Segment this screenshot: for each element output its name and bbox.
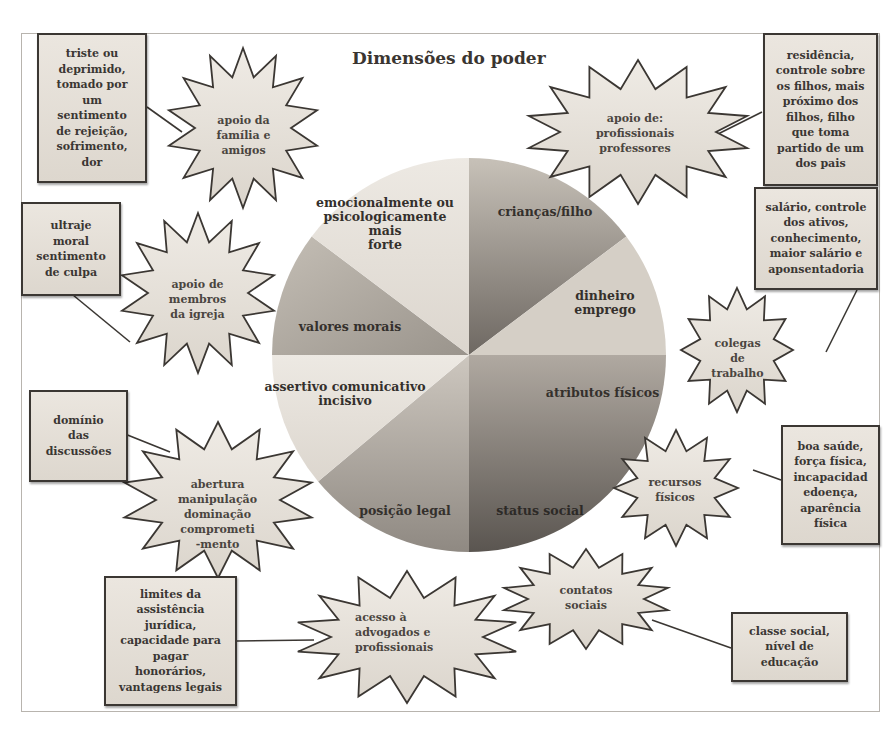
box-salario: salário, controle dos ativos, conhecimen…: [754, 187, 878, 290]
pie-label-posicao: posição legal: [345, 504, 465, 518]
box-triste: triste ou deprimido, tomado por um senti…: [37, 33, 147, 183]
box-residencia: residência, controle sobre os filhos, ma…: [763, 33, 878, 186]
diagram-title: Dimensões do poder: [352, 48, 546, 68]
pie-label-assertivo: assertivo comunicativo incisivo: [255, 380, 435, 408]
box-saude: boa saúde, força física, incapacidad edo…: [781, 425, 880, 545]
box-classe-text: classe social, nível de educação: [749, 624, 830, 671]
box-residencia-text: residência, controle sobre os filhos, ma…: [776, 48, 865, 172]
burst-apoio-familia: apoio da família e amigos: [201, 113, 286, 158]
pie-label-atributos: atributos físicos: [540, 386, 665, 400]
burst-contatos-sociais: contatos sociais: [546, 583, 626, 613]
burst-colegas-trabalho: colegas de trabalho: [700, 336, 775, 381]
box-limites-text: limites da assistência jurídica, capacid…: [119, 587, 222, 696]
box-salario-text: salário, controle dos ativos, conhecimen…: [765, 200, 866, 278]
burst-acesso-advogados: acesso à advogados e profissionais: [355, 610, 460, 655]
burst-apoio-igreja: apoio de membros da igreja: [155, 277, 240, 322]
burst-abertura: abertura manipulação dominação compromet…: [170, 477, 265, 552]
pie-label-criancas: crianças/filho: [480, 205, 610, 219]
burst-apoio-profissionais: apoio de: profissionais professores: [580, 111, 690, 156]
box-classe: classe social, nível de educação: [731, 612, 848, 682]
box-dominio: domínio das discussões: [29, 390, 128, 482]
pie-label-valores: valores morais: [295, 320, 405, 334]
box-saude-text: boa saúde, força física, incapacidad edo…: [793, 439, 867, 532]
box-ultraje: ultraje moral sentimento de culpa: [21, 202, 121, 296]
burst-recursos-fisicos: recursos físicos: [640, 475, 710, 505]
box-limites: limites da assistência jurídica, capacid…: [104, 576, 237, 706]
pie-label-dinheiro: dinheiro emprego: [560, 289, 650, 317]
pie-label-emocional: emocionalmente ou psicologicamente mais …: [305, 196, 465, 252]
box-triste-text: triste ou deprimido, tomado por um senti…: [56, 46, 127, 170]
box-ultraje-text: ultraje moral sentimento de culpa: [36, 218, 106, 280]
pie-label-status: status social: [480, 504, 600, 518]
box-dominio-text: domínio das discussões: [46, 413, 112, 460]
